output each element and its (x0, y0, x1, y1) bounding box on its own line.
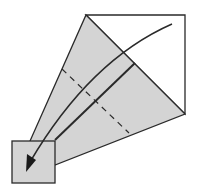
origami-diagram (0, 0, 197, 188)
